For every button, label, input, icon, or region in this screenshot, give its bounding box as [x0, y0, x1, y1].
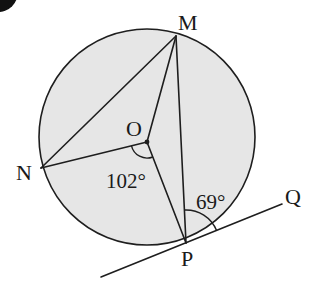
- center-point-O: [145, 140, 150, 145]
- angle-label-NOP: 102°: [106, 169, 146, 193]
- label-O: O: [126, 116, 142, 141]
- label-P: P: [181, 246, 193, 271]
- question-badge: [0, 0, 18, 12]
- angle-label-MPQ: 69°: [196, 190, 225, 214]
- label-N: N: [16, 160, 32, 185]
- label-Q: Q: [285, 184, 301, 209]
- label-M: M: [178, 10, 198, 35]
- circle-theorem-diagram: M N O P Q 102° 69°: [0, 0, 312, 292]
